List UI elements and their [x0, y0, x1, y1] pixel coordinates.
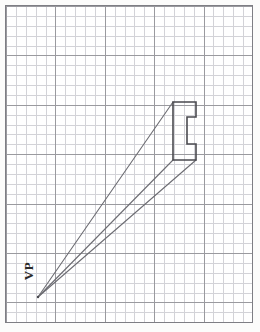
ray-to-bottom-right-corner-line [38, 160, 196, 297]
vanishing-point-marker [37, 296, 39, 298]
ray-to-bottom-left-corner-line [38, 160, 173, 297]
ray-to-top-left-corner-line [38, 102, 173, 297]
vanishing-point-label: VP [20, 254, 38, 288]
drawing-layer [0, 0, 260, 332]
perspective-drawing-page: VP · [0, 0, 260, 332]
faint-pencil-mark: · [138, 153, 142, 157]
object-face-group [173, 102, 196, 160]
c-shape-object-outline [173, 102, 196, 160]
